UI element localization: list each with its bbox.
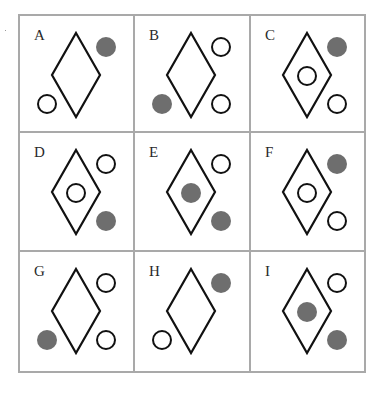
open-circle-center <box>298 184 316 202</box>
open-circle-bottom-left <box>38 95 56 113</box>
open-circle-center <box>67 184 85 202</box>
figure <box>135 16 250 133</box>
open-circle-top-right <box>97 155 115 173</box>
figure <box>135 252 250 369</box>
filled-circle-bottom-right <box>211 211 231 231</box>
filled-circle-top-right <box>96 37 116 57</box>
filled-circle-top-right <box>327 37 347 57</box>
puzzle-grid: ABCDEFGHI <box>18 14 366 373</box>
open-circle-top-right <box>97 274 115 292</box>
open-circle-bottom-right <box>97 331 115 349</box>
open-circle-top-right <box>212 38 230 56</box>
option-cell-b[interactable]: B <box>135 16 251 133</box>
filled-circle-top-right <box>211 273 231 293</box>
option-cell-d[interactable]: D <box>20 133 135 252</box>
open-circle-top-right <box>212 155 230 173</box>
open-circle-center <box>298 67 316 85</box>
figure <box>20 252 135 369</box>
option-cell-a[interactable]: A <box>20 16 135 133</box>
option-cell-f[interactable]: F <box>251 133 364 252</box>
diamond-shape <box>167 269 215 353</box>
filled-circle-bottom-left <box>37 330 57 350</box>
diamond-shape <box>52 33 100 117</box>
figure <box>135 133 250 250</box>
open-circle-bottom-left <box>153 331 171 349</box>
open-circle-bottom-right <box>328 95 346 113</box>
filled-circle-top-right <box>327 154 347 174</box>
open-circle-bottom-right <box>328 212 346 230</box>
diamond-shape <box>167 33 215 117</box>
diamond-shape <box>283 33 331 117</box>
option-cell-g[interactable]: G <box>20 252 135 371</box>
figure <box>20 16 135 133</box>
figure <box>251 16 366 133</box>
figure <box>20 133 135 250</box>
diamond-shape <box>52 269 100 353</box>
speck-artifact <box>5 30 6 31</box>
filled-circle-center <box>181 183 201 203</box>
diamond-shape <box>283 150 331 234</box>
diamond-shape <box>52 150 100 234</box>
filled-circle-center <box>297 302 317 322</box>
filled-circle-bottom-right <box>96 211 116 231</box>
filled-circle-bottom-left <box>152 94 172 114</box>
figure <box>251 133 366 250</box>
option-cell-h[interactable]: H <box>135 252 251 371</box>
filled-circle-bottom-right <box>327 330 347 350</box>
open-circle-bottom-right <box>212 95 230 113</box>
option-cell-c[interactable]: C <box>251 16 364 133</box>
option-cell-i[interactable]: I <box>251 252 364 371</box>
figure <box>251 252 366 369</box>
open-circle-top-right <box>328 274 346 292</box>
option-cell-e[interactable]: E <box>135 133 251 252</box>
